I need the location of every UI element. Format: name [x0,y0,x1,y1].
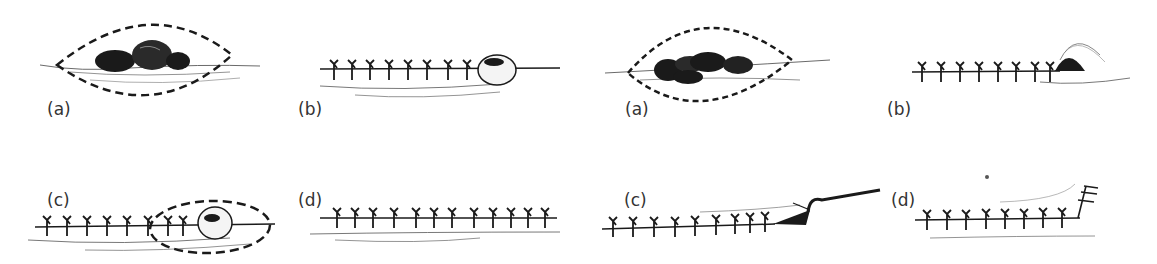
panel-right-a [605,28,830,101]
panel-label-left-c: (c) [47,190,70,210]
panel-left-a [40,25,260,95]
panel-label-left-a: (a) [47,99,71,119]
panel-label-right-b: (b) [887,99,911,119]
panel-label-left-b: (b) [298,99,322,119]
panel-label-right-d: (d) [891,190,915,210]
panel-label-left-d: (d) [298,190,322,210]
skin-hook-icon [808,190,880,212]
panel-left-d [310,208,560,242]
panel-left-b [320,55,560,97]
panel-label-right-a: (a) [625,99,649,119]
panel-right-d [915,175,1098,238]
panel-label-right-c: (c) [624,190,647,210]
panel-right-b [912,44,1130,84]
illustration-canvas [0,0,1157,264]
